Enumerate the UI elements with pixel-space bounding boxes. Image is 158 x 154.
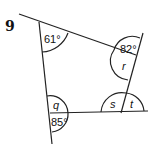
angle-label-s: s <box>110 98 116 110</box>
angle-label-q: q <box>53 99 60 111</box>
angle-label-bottom-left: 85° <box>51 116 68 128</box>
angle-label-top-right: 82° <box>120 43 137 55</box>
arc-bottom-right-right <box>126 93 144 111</box>
angle-label-t: t <box>130 98 134 110</box>
angle-label-top-left: 61° <box>44 33 61 45</box>
angle-label-r: r <box>122 60 127 72</box>
quadrilateral-angle-diagram: 61° 82° r q 85° s t <box>0 0 158 154</box>
top-line <box>19 14 136 55</box>
bottom-line <box>50 111 148 113</box>
